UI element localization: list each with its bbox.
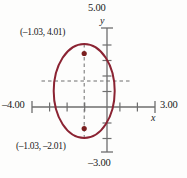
lower-point-label: (–1.03, –2.01) xyxy=(16,142,66,152)
y-axis-max-label: 5.00 xyxy=(88,3,106,14)
x-axis-max-label: 3.00 xyxy=(160,100,178,111)
upper-point-label: (–1.03, 4.01) xyxy=(20,28,65,38)
ellipse-graph-figure: 5.00 –3.00 –4.00 3.00 y x (–1.03, 4.01) … xyxy=(0,0,187,178)
y-axis-min-label: –3.00 xyxy=(88,158,111,169)
x-axis-name-label: x xyxy=(151,113,155,123)
upper-point-marker xyxy=(82,51,87,56)
lower-point-marker xyxy=(82,126,87,131)
x-axis-min-label: –4.00 xyxy=(2,100,25,111)
y-axis-name-label: y xyxy=(100,16,104,26)
